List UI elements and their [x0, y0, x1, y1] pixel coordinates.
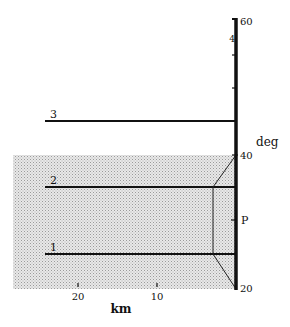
shaded-region — [13, 155, 236, 289]
y-marker-p: P — [241, 214, 249, 227]
y-label-60: 60 — [240, 16, 253, 27]
y-label-40: 40 — [240, 150, 253, 161]
x-label-20: 20 — [72, 291, 85, 302]
y-label-20: 20 — [240, 283, 253, 294]
line-3-label: 3 — [50, 108, 57, 121]
y-axis-title: deg — [256, 135, 279, 149]
diagram-canvas: 3 2 1 60 4 40 20 P deg 20 10 km — [0, 0, 290, 327]
line-2-label: 2 — [50, 174, 57, 187]
x-label-10: 10 — [151, 291, 164, 302]
x-axis-title: km — [110, 302, 131, 316]
line-1-label: 1 — [50, 241, 57, 254]
y-label-4: 4 — [229, 34, 235, 44]
